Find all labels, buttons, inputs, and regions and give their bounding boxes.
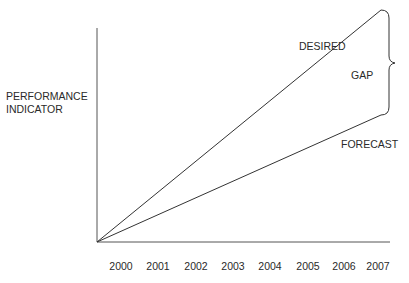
gap-label: GAP — [351, 69, 373, 82]
x-tick-2006: 2006 — [332, 260, 355, 272]
gap-brace — [381, 10, 395, 115]
desired-label: DESIRED — [299, 40, 346, 53]
y-axis-label-line1: PERFORMANCE — [6, 90, 88, 103]
x-tick-2001: 2001 — [146, 260, 169, 272]
x-tick-2004: 2004 — [258, 260, 281, 272]
x-tick-2005: 2005 — [296, 260, 319, 272]
y-axis-label: PERFORMANCE INDICATOR — [6, 90, 88, 116]
forecast-line — [97, 115, 381, 242]
x-tick-2000: 2000 — [109, 260, 132, 272]
x-tick-2002: 2002 — [184, 260, 207, 272]
y-axis-label-line2: INDICATOR — [6, 103, 88, 116]
x-tick-2003: 2003 — [221, 260, 244, 272]
forecast-label: FORECAST — [341, 138, 398, 151]
x-tick-2007: 2007 — [366, 260, 389, 272]
